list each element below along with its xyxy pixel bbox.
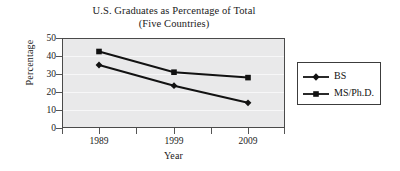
y-axis-tick-labels: 50 40 30 20 10 0 (36, 38, 56, 128)
y-tick-label: 50 (47, 33, 57, 43)
legend-item-bs: BS (302, 68, 346, 82)
chart-title-line2: (Five Countries) (62, 17, 286, 30)
x-tick-label: 2009 (239, 136, 258, 146)
x-axis-ticks (62, 128, 285, 134)
x-tick-mark (248, 128, 249, 134)
chart-figure: U.S. Graduates as Percentage of Total (F… (0, 0, 400, 171)
x-tick-mark (136, 128, 137, 134)
x-axis-tick-labels: 1989 1999 2009 (62, 136, 285, 150)
chart-title-line1: U.S. Graduates as Percentage of Total (93, 5, 256, 16)
legend-label: MS/Ph.D. (334, 87, 374, 98)
data-point-marker (171, 69, 177, 75)
x-tick-mark (211, 128, 212, 134)
chart-legend: BS MS/Ph.D. (297, 62, 381, 105)
data-point-marker (96, 49, 102, 55)
y-tick-label: 40 (47, 51, 57, 61)
x-tick-mark (284, 128, 285, 134)
legend-label: BS (334, 70, 346, 81)
x-tick-mark (99, 128, 100, 134)
x-tick-label: 1999 (165, 136, 184, 146)
y-tick-label: 30 (47, 69, 57, 79)
data-point-marker (171, 82, 178, 89)
series-markers-bs (96, 62, 252, 107)
data-series-layer (62, 38, 285, 128)
x-tick-label: 1989 (90, 136, 109, 146)
y-axis-title: Percentage (24, 28, 35, 98)
y-tick-label: 10 (47, 105, 57, 115)
y-tick-label: 20 (47, 87, 57, 97)
square-marker-icon (302, 86, 330, 98)
chart-title: U.S. Graduates as Percentage of Total (F… (62, 4, 286, 30)
x-tick-mark (62, 128, 63, 134)
diamond-marker-icon (302, 69, 330, 81)
x-tick-mark (174, 128, 175, 134)
data-point-marker (96, 62, 103, 69)
x-axis-title: Year (62, 150, 285, 161)
data-point-marker (245, 75, 251, 81)
data-point-marker (245, 99, 252, 106)
legend-item-msphd: MS/Ph.D. (302, 85, 374, 99)
